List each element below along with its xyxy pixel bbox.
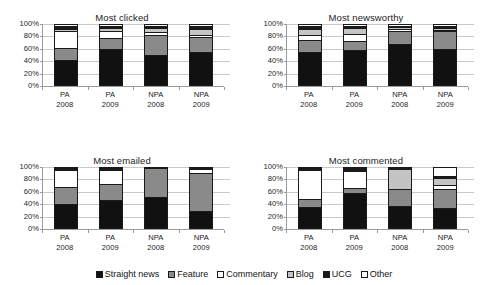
y-axis-tick-label: 60% — [268, 188, 283, 196]
y-axis-tick-label: 60% — [268, 45, 283, 53]
y-axis-tick-label: 20% — [24, 213, 39, 221]
x-axis-tick-mark — [286, 230, 287, 233]
stacked-bar[interactable] — [54, 167, 78, 229]
bar-segment — [389, 190, 411, 207]
x-axis-label-line2: 2009 — [333, 243, 375, 253]
stacked-bar[interactable] — [189, 167, 213, 229]
x-axis-tick-mark — [423, 87, 424, 90]
x-axis-tick-mark — [179, 230, 180, 233]
y-axis-tick-label: 20% — [268, 70, 283, 78]
bar-segment — [190, 174, 212, 212]
legend-item[interactable]: Blog — [287, 269, 314, 279]
y-axis-tick-label: 40% — [24, 200, 39, 208]
x-axis-tick-mark — [224, 87, 225, 90]
x-axis-label: NPA2008 — [379, 233, 421, 252]
stacked-bar[interactable] — [388, 167, 412, 229]
x-axis-label-line2: 2008 — [135, 100, 177, 110]
x-axis-label: NPA2009 — [424, 90, 466, 109]
x-axis-labels: PA2008PA2009NPA2008NPA2009 — [286, 230, 468, 252]
plot-area: 0%20%40%60%80%100% — [42, 24, 224, 87]
bar-segment — [190, 212, 212, 228]
x-axis-tick-mark — [377, 87, 378, 90]
x-axis-label: NPA2009 — [180, 90, 222, 109]
legend-item[interactable]: UCG — [323, 269, 352, 279]
x-axis-label-line2: 2008 — [379, 243, 421, 253]
bar-segment — [100, 32, 122, 39]
x-axis-label-line1: NPA — [379, 233, 421, 243]
stacked-bar[interactable] — [433, 24, 457, 86]
x-axis-tick-mark — [133, 87, 134, 90]
x-axis-tick-mark — [468, 87, 469, 90]
stacked-bar[interactable] — [433, 167, 457, 229]
bar-segment — [299, 41, 321, 53]
panel-most-commented: Most commented 0%20%40%60%80%100% PA2008… — [244, 143, 488, 260]
x-axis-tick-mark — [332, 87, 333, 90]
legend-item[interactable]: Commentary — [217, 269, 278, 279]
y-axis-tick-label: 100% — [20, 20, 39, 28]
x-axis-label-line1: NPA — [424, 233, 466, 243]
x-axis-tick-mark — [88, 87, 89, 90]
stacked-bar[interactable] — [388, 24, 412, 86]
x-axis-label: PA2009 — [333, 90, 375, 109]
bar-segment — [55, 32, 77, 49]
bar-segment — [55, 171, 77, 188]
y-axis-tick-label: 100% — [264, 163, 283, 171]
panel-most-newsworthy: Most newsworthy 0%20%40%60%80%100% PA200… — [244, 0, 488, 143]
bar-segment — [299, 171, 321, 200]
stacked-bar[interactable] — [298, 167, 322, 229]
x-axis-label-line1: PA — [44, 233, 86, 243]
stacked-bar[interactable] — [99, 167, 123, 229]
x-axis-label-line1: NPA — [135, 233, 177, 243]
x-axis-label-line1: PA — [89, 233, 131, 243]
x-axis-label: NPA2008 — [135, 90, 177, 109]
x-axis-label-line2: 2008 — [44, 100, 86, 110]
bar-segment — [190, 53, 212, 85]
x-axis-tick-mark — [423, 230, 424, 233]
bar-segment — [344, 172, 366, 189]
x-axis-label-line2: 2008 — [288, 243, 330, 253]
x-axis-labels: PA2008PA2009NPA2008NPA2009 — [286, 87, 468, 109]
bar-segment — [434, 32, 456, 49]
y-axis-tick-label: 100% — [264, 20, 283, 28]
x-axis-label-line1: NPA — [180, 233, 222, 243]
bar-segment — [299, 200, 321, 208]
x-axis-label: PA2009 — [89, 90, 131, 109]
x-axis-tick-mark — [377, 230, 378, 233]
bar-segment — [55, 61, 77, 85]
bar-segment — [434, 209, 456, 228]
x-axis-tick-mark — [88, 230, 89, 233]
bar-segment — [145, 36, 167, 55]
stacked-bar[interactable] — [343, 24, 367, 86]
legend-label: UCG — [332, 269, 352, 279]
bar-segment — [344, 42, 366, 51]
x-axis-label-line1: PA — [89, 90, 131, 100]
stacked-bar[interactable] — [99, 24, 123, 86]
stacked-bar[interactable] — [189, 24, 213, 86]
stacked-bar[interactable] — [298, 24, 322, 86]
stacked-bar[interactable] — [144, 24, 168, 86]
x-axis-label-line1: NPA — [135, 90, 177, 100]
bar-segment — [145, 169, 167, 198]
x-axis-labels: PA2008PA2009NPA2008NPA2009 — [42, 230, 224, 252]
bar-segment — [100, 50, 122, 85]
bar-segment — [389, 207, 411, 228]
y-axis-tick-label: 80% — [24, 176, 39, 184]
stacked-bar[interactable] — [144, 167, 168, 229]
y-axis-tick-label: 40% — [268, 200, 283, 208]
y-axis-tick-label: 20% — [268, 213, 283, 221]
legend-swatch-icon — [361, 271, 368, 278]
x-axis-tick-mark — [286, 87, 287, 90]
x-axis-label-line2: 2009 — [89, 243, 131, 253]
legend-item[interactable]: Other — [361, 269, 393, 279]
stacked-bar[interactable] — [54, 24, 78, 86]
legend-item[interactable]: Feature — [168, 269, 208, 279]
bar-segment — [100, 171, 122, 185]
x-axis-label: PA2009 — [333, 233, 375, 252]
plot-area: 0%20%40%60%80%100% — [42, 167, 224, 230]
x-axis-tick-mark — [179, 87, 180, 90]
stacked-bar[interactable] — [343, 167, 367, 229]
bar-segment — [389, 32, 411, 45]
bar-segment — [344, 51, 366, 85]
legend-item[interactable]: Straight news — [96, 269, 160, 279]
legend-swatch-icon — [168, 271, 175, 278]
